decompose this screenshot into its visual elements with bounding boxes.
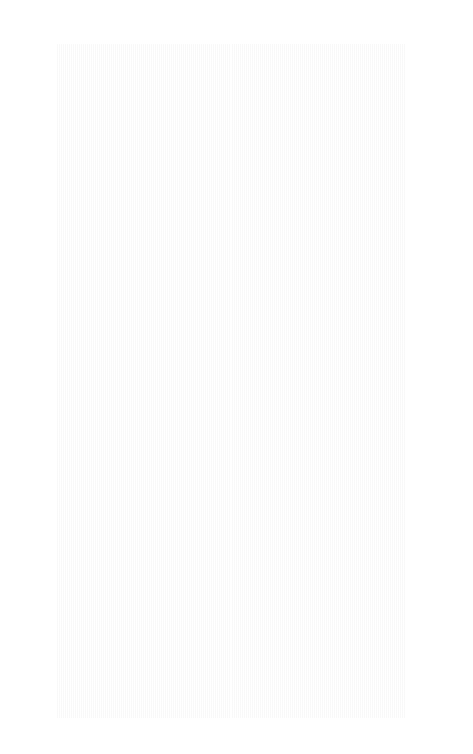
left-intensity-strip [57, 44, 231, 718]
right-y-axis [410, 0, 470, 754]
left-y-axis [0, 0, 60, 754]
right-intensity-strip [232, 44, 406, 718]
